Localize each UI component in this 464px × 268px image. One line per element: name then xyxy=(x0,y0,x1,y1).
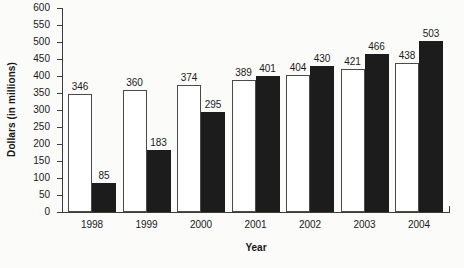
y-axis-tick: 550 xyxy=(57,25,62,26)
bar-group: 374295 xyxy=(177,8,225,212)
y-axis-title-text: Dollars (in millions) xyxy=(6,62,17,157)
y-axis-tick: 350 xyxy=(57,93,62,94)
bar-value-label: 401 xyxy=(259,63,276,75)
x-axis-tick-label: 1998 xyxy=(68,218,116,231)
y-axis-tick-label: 550 xyxy=(33,18,50,31)
x-axis-line xyxy=(62,212,450,213)
bar-open: 346 xyxy=(68,94,92,212)
y-axis-tick-label: 400 xyxy=(33,69,50,82)
x-axis-tick-label: 2002 xyxy=(286,218,334,231)
bar-group: 404430 xyxy=(286,8,334,212)
y-axis-title: Dollars (in millions) xyxy=(0,0,22,218)
bar-group: 438503 xyxy=(395,8,443,212)
bar-value-label: 360 xyxy=(126,77,143,89)
y-axis-tick-label: 100 xyxy=(33,171,50,184)
x-axis-tick-label: 2003 xyxy=(341,218,389,231)
bar-value-label: 421 xyxy=(344,56,361,68)
y-axis-tick-label: 300 xyxy=(33,103,50,116)
y-axis-tick: 400 xyxy=(57,76,62,77)
bar-value-label: 466 xyxy=(368,41,385,53)
y-axis-tick: 0 xyxy=(57,212,62,213)
bar-filled: 295 xyxy=(201,112,225,212)
y-axis-tick: 150 xyxy=(57,161,62,162)
plot-area: 050100150200250300350400450500550600 346… xyxy=(62,8,450,212)
y-axis-tick-label: 200 xyxy=(33,137,50,150)
bar-value-label: 404 xyxy=(290,62,307,74)
bar-filled: 85 xyxy=(92,183,116,212)
bar-group: 421466 xyxy=(341,8,389,212)
y-axis-tick: 50 xyxy=(57,195,62,196)
bar-value-label: 389 xyxy=(235,67,252,79)
bar-value-label: 183 xyxy=(150,137,167,149)
y-axis-tick: 100 xyxy=(57,178,62,179)
bar-value-label: 374 xyxy=(181,72,198,84)
bar-value-label: 295 xyxy=(205,99,222,111)
y-axis-tick-label: 450 xyxy=(33,52,50,65)
y-axis-line xyxy=(62,8,63,212)
y-axis-tick: 500 xyxy=(57,42,62,43)
y-axis-tick-label: 600 xyxy=(33,1,50,14)
bar-chart: Dollars (in millions) 050100150200250300… xyxy=(0,0,464,268)
y-axis-tick: 250 xyxy=(57,127,62,128)
bar-value-label: 430 xyxy=(314,53,331,65)
y-axis-tick: 600 xyxy=(57,8,62,9)
y-axis-tick: 450 xyxy=(57,59,62,60)
bar-group: 360183 xyxy=(123,8,171,212)
bar-filled: 401 xyxy=(256,76,280,212)
bar-value-label: 438 xyxy=(399,50,416,62)
x-axis-tick-label: 2004 xyxy=(395,218,443,231)
x-axis-tick-label: 2001 xyxy=(232,218,280,231)
y-axis-tick-label: 500 xyxy=(33,35,50,48)
x-axis-tick-label: 2000 xyxy=(177,218,225,231)
bar-open: 404 xyxy=(286,75,310,212)
bar-value-label: 503 xyxy=(423,28,440,40)
y-axis-tick-label: 0 xyxy=(44,205,50,218)
bar-open: 374 xyxy=(177,85,201,212)
bar-open: 421 xyxy=(341,69,365,212)
bar-filled: 183 xyxy=(147,150,171,212)
x-axis-tick-label: 1999 xyxy=(123,218,171,231)
x-axis-title: Year xyxy=(62,242,450,253)
x-axis-end-tick xyxy=(449,206,450,213)
bar-open: 438 xyxy=(395,63,419,212)
bar-value-label: 85 xyxy=(98,170,109,182)
y-axis-tick-label: 250 xyxy=(33,120,50,133)
bar-open: 389 xyxy=(232,80,256,212)
bar-group: 389401 xyxy=(232,8,280,212)
bar-filled: 430 xyxy=(310,66,334,212)
y-axis-tick: 300 xyxy=(57,110,62,111)
bar-filled: 503 xyxy=(419,41,443,212)
y-axis-tick: 200 xyxy=(57,144,62,145)
bar-value-label: 346 xyxy=(72,81,89,93)
bar-filled: 466 xyxy=(365,54,389,212)
bar-group: 34685 xyxy=(68,8,116,212)
y-axis-tick-label: 150 xyxy=(33,154,50,167)
y-axis-tick-label: 350 xyxy=(33,86,50,99)
bar-open: 360 xyxy=(123,90,147,212)
y-axis-tick-label: 50 xyxy=(39,188,50,201)
